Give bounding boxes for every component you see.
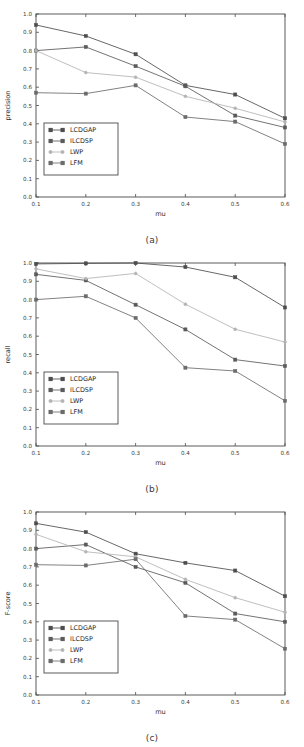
svg-text:0.8: 0.8 — [23, 546, 32, 552]
svg-text:LCDGAP: LCDGAP — [70, 624, 96, 632]
svg-text:precision: precision — [4, 91, 12, 121]
svg-text:0.6: 0.6 — [23, 582, 32, 588]
plot-area-recall: 0.00.10.20.30.40.50.60.70.80.91.00.10.20… — [0, 249, 304, 474]
svg-text:0.0: 0.0 — [23, 194, 32, 200]
svg-text:0.8: 0.8 — [23, 48, 32, 54]
svg-text:0.3: 0.3 — [23, 388, 32, 394]
panel-c-fscore: 0.00.10.20.30.40.50.60.70.80.91.00.10.20… — [0, 498, 304, 747]
svg-text:0.0: 0.0 — [23, 443, 32, 449]
svg-text:LFM: LFM — [70, 159, 83, 167]
svg-text:0.2: 0.2 — [23, 655, 32, 661]
svg-text:0.1: 0.1 — [23, 425, 32, 431]
svg-text:0.4: 0.4 — [23, 370, 32, 376]
svg-text:1.0: 1.0 — [23, 509, 32, 515]
svg-text:0.1: 0.1 — [23, 176, 32, 182]
svg-text:0.8: 0.8 — [23, 297, 32, 303]
svg-text:0.2: 0.2 — [23, 406, 32, 412]
svg-text:LFM: LFM — [70, 657, 83, 665]
svg-text:0.9: 0.9 — [23, 527, 32, 533]
svg-text:0.9: 0.9 — [23, 29, 32, 35]
panel-caption-b: (b) — [0, 484, 304, 494]
svg-text:ILCDSP: ILCDSP — [70, 137, 93, 145]
svg-text:0.2: 0.2 — [81, 699, 90, 705]
svg-text:0.4: 0.4 — [181, 699, 190, 705]
precision-svg: 0.00.10.20.30.40.50.60.70.80.91.00.10.20… — [0, 0, 304, 225]
svg-text:1.0: 1.0 — [23, 260, 32, 266]
svg-text:0.4: 0.4 — [23, 121, 32, 127]
panel-caption-c: (c) — [0, 733, 304, 743]
svg-text:0.3: 0.3 — [131, 450, 140, 456]
svg-text:0.4: 0.4 — [181, 450, 190, 456]
svg-text:0.1: 0.1 — [32, 201, 41, 207]
recall-svg: 0.00.10.20.30.40.50.60.70.80.91.00.10.20… — [0, 249, 304, 474]
svg-text:0.5: 0.5 — [231, 201, 240, 207]
svg-text:0.3: 0.3 — [131, 201, 140, 207]
svg-text:0.2: 0.2 — [81, 201, 90, 207]
svg-text:LCDGAP: LCDGAP — [70, 375, 96, 383]
fscore-svg: 0.00.10.20.30.40.50.60.70.80.91.00.10.20… — [0, 498, 304, 723]
svg-text:ILCDSP: ILCDSP — [70, 635, 93, 643]
svg-text:0.0: 0.0 — [23, 692, 32, 698]
svg-text:recall: recall — [4, 345, 12, 363]
figure-three-panel-metrics: 0.00.10.20.30.40.50.60.70.80.91.00.10.20… — [0, 0, 304, 747]
svg-text:LFM: LFM — [70, 408, 83, 416]
svg-text:0.5: 0.5 — [231, 450, 240, 456]
svg-text:mu: mu — [155, 459, 166, 467]
svg-text:F-score: F-score — [4, 592, 12, 616]
svg-text:1.0: 1.0 — [23, 11, 32, 17]
svg-text:0.2: 0.2 — [81, 450, 90, 456]
svg-text:0.3: 0.3 — [23, 637, 32, 643]
plot-area-precision: 0.00.10.20.30.40.50.60.70.80.91.00.10.20… — [0, 0, 304, 225]
plot-area-fscore: 0.00.10.20.30.40.50.60.70.80.91.00.10.20… — [0, 498, 304, 723]
panel-caption-a: (a) — [0, 235, 304, 245]
svg-text:0.5: 0.5 — [231, 699, 240, 705]
svg-text:0.6: 0.6 — [23, 333, 32, 339]
svg-text:0.5: 0.5 — [23, 352, 32, 358]
svg-text:0.6: 0.6 — [281, 699, 290, 705]
svg-text:0.7: 0.7 — [23, 564, 32, 570]
svg-text:0.6: 0.6 — [281, 201, 290, 207]
svg-text:0.3: 0.3 — [131, 699, 140, 705]
svg-text:ILCDSP: ILCDSP — [70, 386, 93, 394]
panel-a-precision: 0.00.10.20.30.40.50.60.70.80.91.00.10.20… — [0, 0, 304, 249]
svg-text:0.4: 0.4 — [181, 201, 190, 207]
svg-text:0.7: 0.7 — [23, 315, 32, 321]
svg-text:0.6: 0.6 — [281, 450, 290, 456]
svg-text:LCDGAP: LCDGAP — [70, 126, 96, 134]
svg-text:0.5: 0.5 — [23, 601, 32, 607]
svg-text:0.1: 0.1 — [23, 674, 32, 680]
svg-text:mu: mu — [155, 210, 166, 218]
svg-text:LWP: LWP — [70, 646, 83, 654]
svg-text:0.9: 0.9 — [23, 278, 32, 284]
svg-text:0.2: 0.2 — [23, 157, 32, 163]
svg-text:0.4: 0.4 — [23, 619, 32, 625]
svg-text:0.1: 0.1 — [32, 450, 41, 456]
svg-text:LWP: LWP — [70, 397, 83, 405]
svg-text:0.6: 0.6 — [23, 84, 32, 90]
svg-text:LWP: LWP — [70, 148, 83, 156]
svg-text:0.1: 0.1 — [32, 699, 41, 705]
svg-text:0.5: 0.5 — [23, 103, 32, 109]
svg-text:mu: mu — [155, 708, 166, 716]
svg-text:0.7: 0.7 — [23, 66, 32, 72]
panel-b-recall: 0.00.10.20.30.40.50.60.70.80.91.00.10.20… — [0, 249, 304, 498]
svg-text:0.3: 0.3 — [23, 139, 32, 145]
